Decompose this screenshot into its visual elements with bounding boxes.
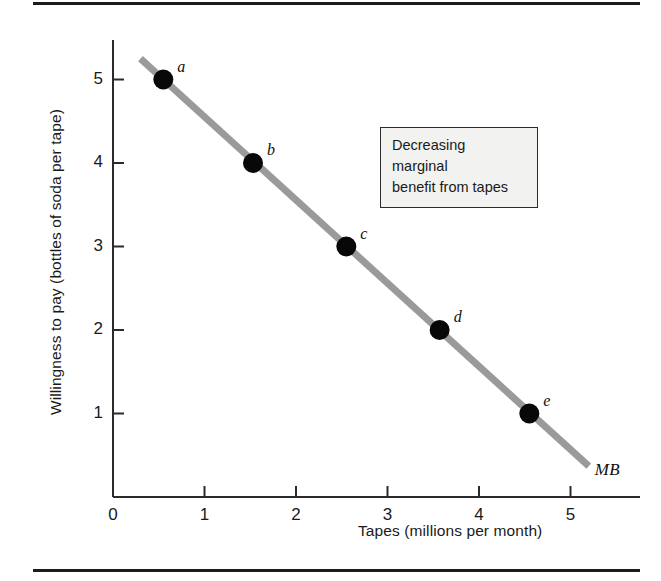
point-label-c: c bbox=[360, 225, 367, 243]
point-label-e: e bbox=[543, 392, 550, 410]
data-point-b bbox=[243, 153, 263, 173]
data-point-a bbox=[153, 70, 173, 90]
y-axis-title: Willingness to pay (bottles of soda per … bbox=[42, 35, 70, 415]
point-label-d: d bbox=[454, 308, 462, 326]
marginal-benefit-curve bbox=[140, 59, 588, 466]
x-tick-label-2: 2 bbox=[283, 505, 309, 525]
x-tick-label-4: 4 bbox=[466, 505, 492, 525]
curve-label-mb: MB bbox=[595, 460, 620, 480]
point-label-a: a bbox=[177, 58, 185, 76]
x-tick-label-3: 3 bbox=[375, 505, 401, 525]
annotation-line-3: benefit from tapes bbox=[392, 177, 528, 198]
point-label-b: b bbox=[267, 141, 275, 159]
y-tick-label-3: 3 bbox=[81, 236, 103, 256]
x-tick-label-1: 1 bbox=[192, 505, 218, 525]
data-point-d bbox=[430, 320, 450, 340]
y-tick-label-2: 2 bbox=[81, 319, 103, 339]
figure-container: Willingness to pay (bottles of soda per … bbox=[0, 0, 661, 581]
annotation-line-2: marginal bbox=[392, 156, 528, 177]
y-tick-label-1: 1 bbox=[81, 403, 103, 423]
y-tick-label-4: 4 bbox=[81, 152, 103, 172]
data-point-e bbox=[519, 404, 539, 424]
y-tick-label-5: 5 bbox=[81, 69, 103, 89]
x-tick-label-0: 0 bbox=[100, 505, 126, 525]
annotation-line-1: Decreasing bbox=[392, 135, 528, 156]
data-point-c bbox=[336, 237, 356, 257]
annotation-box: Decreasing marginal benefit from tapes bbox=[380, 127, 538, 208]
x-tick-label-5: 5 bbox=[558, 505, 584, 525]
